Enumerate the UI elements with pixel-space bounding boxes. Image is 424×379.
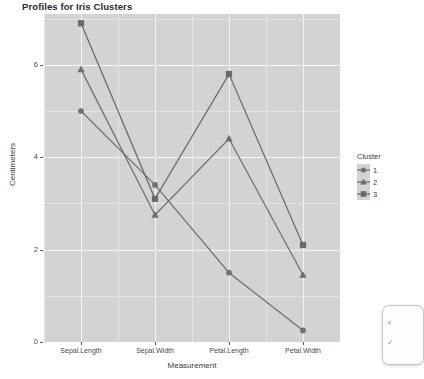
- x-axis-tick-mark: [229, 342, 230, 345]
- data-point-square: [226, 71, 232, 77]
- y-axis-tick-mark: [40, 65, 43, 66]
- legend-title: Cluster: [357, 152, 408, 161]
- y-axis-title: Centimeters: [8, 120, 17, 210]
- series-line: [81, 69, 303, 275]
- data-point-circle: [78, 108, 84, 114]
- overlay-card[interactable]: × ✓: [382, 305, 424, 365]
- legend-item: 3: [357, 188, 408, 200]
- y-axis-tick-mark: [40, 342, 43, 343]
- data-point-triangle: [77, 66, 84, 73]
- x-axis-tick-mark: [81, 342, 82, 345]
- legend-item: 1: [357, 164, 408, 176]
- overlay-line-1: ×: [387, 318, 392, 327]
- series-3: [78, 20, 306, 248]
- data-point-square: [300, 242, 306, 248]
- y-axis-tick-label: 2: [26, 245, 38, 254]
- triangle-marker: [357, 176, 370, 188]
- legend-item-label: 2: [373, 178, 377, 187]
- x-axis-tick-label: Sepal.Length: [41, 347, 121, 354]
- legend-item-label: 1: [373, 166, 377, 175]
- x-axis-tick-label: Petal.Length: [189, 347, 269, 354]
- series-1: [78, 108, 306, 333]
- square-marker: [357, 188, 370, 200]
- y-axis-tick-label: 6: [26, 60, 38, 69]
- data-point-triangle: [225, 135, 232, 142]
- y-axis-tick-label: 4: [26, 152, 38, 161]
- x-axis-title: Measurement: [44, 361, 340, 370]
- legend-item-label: 3: [373, 190, 377, 199]
- legend-item: 2: [357, 176, 408, 188]
- x-axis-tick-label: Petal.Width: [263, 347, 343, 354]
- y-axis-tick-mark: [40, 250, 43, 251]
- data-point-square: [152, 196, 158, 202]
- y-axis-tick-mark: [40, 157, 43, 158]
- circle-marker: [357, 164, 370, 176]
- data-point-triangle: [299, 271, 306, 278]
- overlay-line-2: ✓: [387, 338, 394, 347]
- x-axis-tick-mark: [303, 342, 304, 345]
- data-point-circle: [152, 182, 158, 188]
- data-point-circle: [300, 328, 306, 334]
- data-point-circle: [226, 270, 232, 276]
- y-axis-tick-label: 0: [26, 337, 38, 346]
- series-line: [81, 111, 303, 331]
- legend-items: 123: [357, 164, 408, 200]
- legend: Cluster 123: [357, 152, 408, 200]
- data-point-square: [78, 20, 84, 26]
- x-axis-tick-label: Sepal.Width: [115, 347, 195, 354]
- x-axis-tick-mark: [155, 342, 156, 345]
- page-title: Profiles for Iris Clusters: [22, 1, 132, 12]
- series-layer: [44, 14, 340, 342]
